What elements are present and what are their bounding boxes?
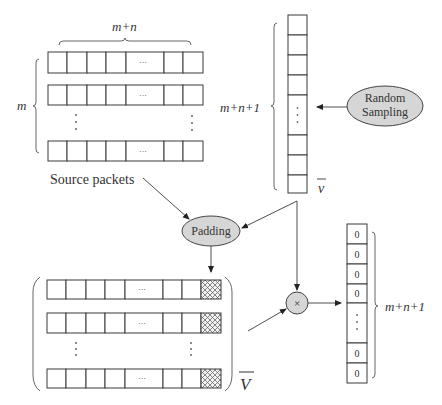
ellipsis: ··· <box>139 147 147 156</box>
result-vector: 0 0 0 0 0 0 m+n+1 <box>347 224 425 383</box>
height-brace <box>33 59 39 153</box>
matrix-to-multiply-arrow <box>248 309 286 331</box>
vertical-ellipsis <box>75 342 192 356</box>
padding-cell <box>201 313 221 333</box>
right-paren <box>225 277 232 391</box>
source-packets-label: Source packets <box>50 172 134 187</box>
diagram-canvas: m+n m ··· ··· <box>0 0 442 405</box>
padded-row: ··· <box>47 369 221 388</box>
packet-row: ··· <box>48 52 203 73</box>
random-sampling-node: Random Sampling <box>347 86 423 126</box>
random-sampling-label-line2: Sampling <box>362 105 408 119</box>
padding-node: Padding <box>182 216 240 246</box>
padding-cell <box>201 280 221 299</box>
padding-cell <box>201 369 221 388</box>
padded-row: ··· <box>47 280 221 299</box>
random-sampling-label-line1: Random <box>365 91 406 105</box>
result-brace <box>372 232 378 378</box>
matrix-name-label: V <box>240 375 253 394</box>
result-length-label: m+n+1 <box>385 299 425 314</box>
vector-length-label: m+n+1 <box>220 100 260 115</box>
padded-row: ··· <box>47 313 221 333</box>
result-cell: 0 <box>355 269 360 280</box>
width-brace <box>59 38 191 45</box>
vector-to-padding-arrow <box>242 201 297 228</box>
width-label: m+n <box>112 19 137 34</box>
vertical-ellipsis <box>75 114 193 131</box>
vector-name-label: v <box>318 181 325 196</box>
ellipsis: ··· <box>138 319 146 328</box>
padded-matrix: ··· ··· ··· V <box>33 277 254 394</box>
ellipsis: ··· <box>139 58 147 67</box>
multiply-icon: × <box>294 297 300 309</box>
source-to-padding-arrow <box>143 178 189 219</box>
result-cell: 0 <box>355 288 360 299</box>
padding-label: Padding <box>191 224 230 238</box>
result-cell: 0 <box>355 348 360 359</box>
multiply-node: × <box>286 292 308 314</box>
ellipsis: ··· <box>138 374 146 383</box>
result-cell: 0 <box>355 249 360 260</box>
ellipsis: ··· <box>138 285 146 294</box>
packet-row: ··· <box>48 85 203 105</box>
left-paren <box>33 277 40 391</box>
vector-brace <box>271 23 277 190</box>
packet-row: ··· <box>48 141 203 161</box>
ellipsis: ··· <box>139 91 147 100</box>
result-cell: 0 <box>355 368 360 379</box>
height-label: m <box>17 98 26 113</box>
sampling-vector: m+n+1 v <box>220 15 326 196</box>
source-packet-matrix: m+n m ··· ··· <box>17 19 203 161</box>
result-cell: 0 <box>355 229 360 240</box>
